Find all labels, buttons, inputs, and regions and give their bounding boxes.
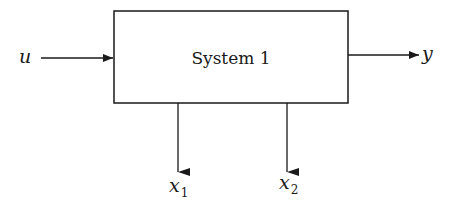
system-label: System 1 [191, 48, 270, 68]
block-diagram: System 1 u y x1 x2 [0, 0, 452, 213]
input-label: u [19, 45, 31, 67]
state-label-x2: x2 [279, 171, 298, 197]
output-label: y [421, 42, 433, 64]
state-label-x1: x1 [169, 174, 188, 200]
